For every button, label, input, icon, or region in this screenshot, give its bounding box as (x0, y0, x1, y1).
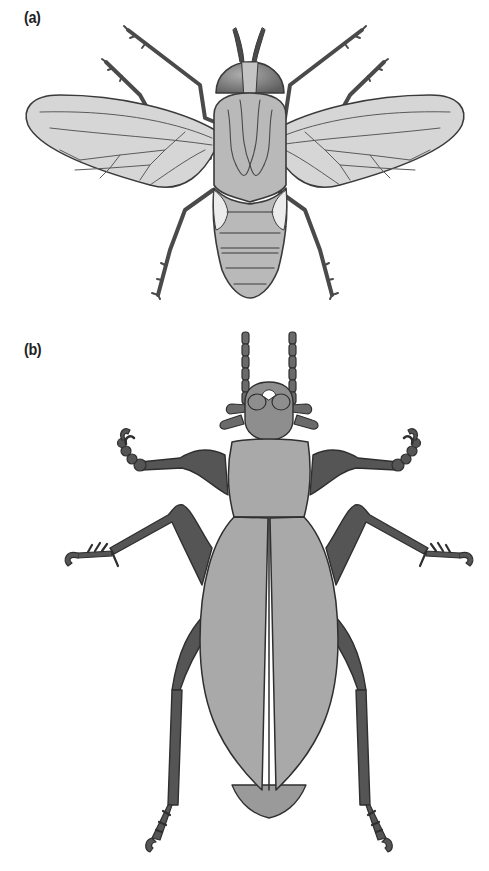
fly-antennae (233, 28, 265, 62)
fly-wing-left (26, 95, 215, 187)
fly-wing-right (275, 95, 464, 187)
beetle-pronotum (228, 439, 310, 517)
beetle-illustration (65, 332, 473, 852)
fly-abdomen (213, 188, 286, 298)
fly-thorax (214, 93, 286, 202)
insect-illustrations (0, 0, 489, 871)
beetle-head (245, 382, 293, 440)
beetle-elytra (200, 517, 338, 790)
fly-illustration (26, 26, 464, 299)
fly-head (216, 62, 284, 93)
